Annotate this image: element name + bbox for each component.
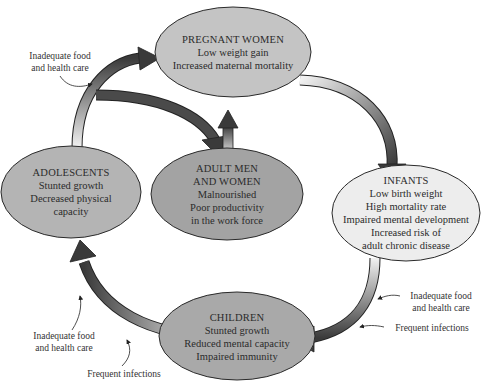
annotation-line: and health care bbox=[24, 342, 104, 354]
node-pregnant-women: PREGNANT WOMEN Low weight gain Increased… bbox=[155, 10, 311, 94]
node-title: ADULT MEN bbox=[196, 162, 258, 175]
node-line: Increased risk of bbox=[371, 226, 441, 239]
node-line: Poor productivity bbox=[190, 201, 264, 214]
node-line: Stunted growth bbox=[39, 179, 103, 192]
pointer-bottom-left-infections bbox=[122, 340, 130, 366]
node-line: adult chronic disease bbox=[362, 239, 450, 252]
node-line: Impaired immunity bbox=[196, 350, 277, 363]
annotation-bottom-left-infections: Frequent infections bbox=[74, 368, 174, 380]
node-title: PREGNANT WOMEN bbox=[182, 33, 284, 46]
pointer-bottom-left-food bbox=[72, 296, 81, 330]
annotation-line: and health care bbox=[20, 62, 100, 74]
pointer-right-infections bbox=[360, 326, 384, 328]
annotation-line: Frequent infections bbox=[382, 322, 482, 334]
node-line: Low weight gain bbox=[197, 46, 268, 59]
annotation-line: and health care bbox=[398, 302, 484, 314]
node-adult-men-and-women: ADULT MEN AND WOMEN Malnourished Poor pr… bbox=[151, 148, 303, 240]
annotation-line: Inadequate food bbox=[20, 50, 100, 62]
node-title: AND WOMEN bbox=[193, 175, 261, 188]
annotation-line: Inadequate food bbox=[398, 290, 484, 302]
node-line: Stunted growth bbox=[205, 324, 269, 337]
annotation-right-infections: Frequent infections bbox=[382, 322, 482, 334]
node-line: Low birth weight bbox=[370, 187, 443, 200]
node-infants: INFANTS Low birth weight High mortality … bbox=[332, 165, 480, 261]
node-line: in the work force bbox=[191, 214, 263, 227]
pointer-top-left bbox=[60, 76, 92, 86]
node-title: CHILDREN bbox=[210, 311, 265, 324]
annotation-line: Inadequate food bbox=[24, 330, 104, 342]
pointer-right-food bbox=[378, 295, 400, 299]
node-title: ADOLESCENTS bbox=[33, 166, 110, 179]
node-line: Decreased physical bbox=[30, 192, 111, 205]
node-line: Malnourished bbox=[198, 188, 256, 201]
node-line: capacity bbox=[54, 205, 89, 218]
node-line: Impaired mental development bbox=[343, 213, 469, 226]
annotation-line: Frequent infections bbox=[74, 368, 174, 380]
annotation-bottom-left-food: Inadequate food and health care bbox=[24, 330, 104, 354]
node-children: CHILDREN Stunted growth Reduced mental c… bbox=[159, 294, 315, 380]
node-adolescents: ADOLESCENTS Stunted growth Decreased phy… bbox=[1, 146, 141, 238]
node-line: Increased maternal mortality bbox=[173, 59, 294, 72]
node-line: Reduced mental capacity bbox=[184, 337, 290, 350]
annotation-right-food: Inadequate food and health care bbox=[398, 290, 484, 314]
node-title: INFANTS bbox=[384, 174, 429, 187]
annotation-top-left-food: Inadequate food and health care bbox=[20, 50, 100, 74]
node-line: High mortality rate bbox=[366, 200, 446, 213]
